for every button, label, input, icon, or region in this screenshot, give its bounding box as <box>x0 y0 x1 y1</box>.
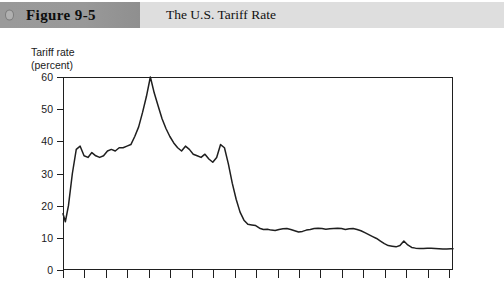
y-tick-label: 30 <box>27 168 53 180</box>
circle-icon <box>5 10 14 21</box>
x-tick-mark <box>106 270 107 278</box>
x-tick-mark <box>84 270 85 278</box>
x-tick-mark <box>192 270 193 278</box>
y-tick-label: 40 <box>27 135 53 147</box>
x-tick-mark <box>127 270 128 278</box>
y-tick-label: 20 <box>27 200 53 212</box>
x-tick-mark <box>63 270 64 278</box>
y-tick-label: 10 <box>27 232 53 244</box>
y-tick-label: 50 <box>27 103 53 115</box>
y-axis-title: Tariff rate (percent) <box>31 46 75 71</box>
x-tick-mark <box>213 270 214 278</box>
x-tick-mark <box>278 270 279 278</box>
figure-caption-bar: Figure 9-5 The U.S. Tariff Rate <box>0 2 504 28</box>
x-tick-mark <box>299 270 300 278</box>
x-tick-mark <box>320 270 321 278</box>
x-tick-mark <box>256 270 257 278</box>
figure-title-band: The U.S. Tariff Rate <box>140 2 504 28</box>
x-tick-mark <box>385 270 386 278</box>
x-tick-mark <box>235 270 236 278</box>
x-tick-mark <box>363 270 364 278</box>
x-tick-mark <box>449 270 450 278</box>
figure-number-label: Figure 9-5 <box>26 7 96 24</box>
x-tick-mark <box>149 270 150 278</box>
x-tick-mark <box>170 270 171 278</box>
tariff-rate-chart: Tariff rate (percent) 0102030405060 <box>0 28 504 292</box>
tariff-rate-series <box>63 77 453 270</box>
y-tick-label: 60 <box>27 71 53 83</box>
figure-number-band: Figure 9-5 <box>0 2 140 28</box>
x-tick-mark <box>428 270 429 278</box>
y-tick-label: 0 <box>27 264 53 276</box>
x-tick-mark <box>342 270 343 278</box>
x-tick-mark <box>406 270 407 278</box>
figure-title-label: The U.S. Tariff Rate <box>166 7 276 23</box>
